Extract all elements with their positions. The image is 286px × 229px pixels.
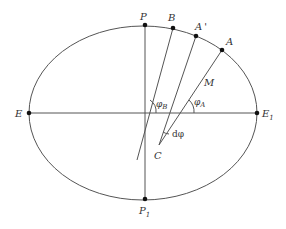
label-E: E [14,108,23,119]
label-phi-B: φB [156,99,167,111]
label-P: P [139,11,147,22]
label-E1: E1 [261,108,274,122]
label-phi-B-sub: B [161,103,167,111]
label-E1-sub: 1 [269,114,273,122]
label-P1-sub: 1 [146,211,150,219]
point-P [143,23,148,28]
point-E [27,111,32,116]
label-A: A [225,36,233,47]
label-A-prime-mark: ' [204,21,207,32]
label-C: C [154,150,162,161]
point-P1 [143,197,148,202]
normal-line-A [159,50,222,145]
label-A-prime: A' [194,21,207,32]
normal-line-B [137,28,173,160]
point-B [171,26,176,31]
label-dphi: dφ [172,129,184,139]
point-A [220,48,225,53]
label-P1: P1 [138,205,150,219]
label-phi-A: φA [194,97,205,109]
ellipse-diagram: P B A' A M E E1 P1 C φB φA dφ [0,0,286,229]
label-B: B [167,12,175,23]
angle-arc-dphi [163,132,169,134]
point-E1 [255,111,260,116]
label-A-prime-main: A [194,21,202,32]
label-M: M [203,77,215,88]
label-phi-A-sub: A [199,101,205,109]
point-A-prime [194,34,199,39]
